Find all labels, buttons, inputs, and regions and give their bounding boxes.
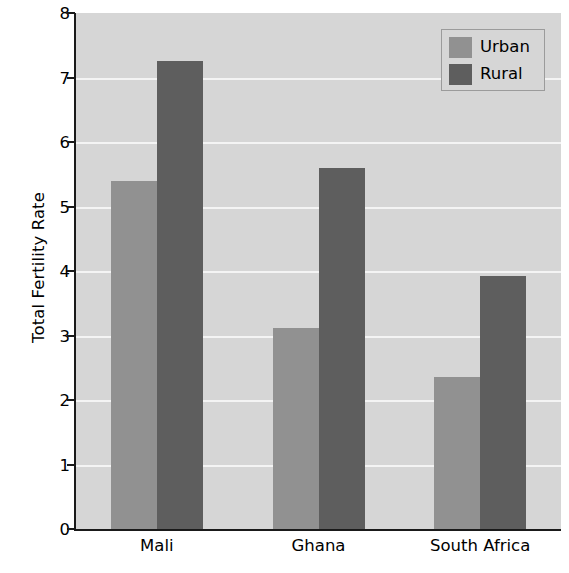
bar-urban-south-africa [434,377,480,529]
legend-item-urban: Urban [449,36,530,58]
y-tick-mark [67,141,75,143]
y-tick-mark [67,77,75,79]
y-tick-mark [67,335,75,337]
y-tick-label: 4 [40,262,70,281]
y-tick-label: 5 [40,197,70,216]
bar-rural-mali [157,61,203,529]
y-tick-mark [67,528,75,530]
gridline [76,142,561,144]
y-tick-mark [67,270,75,272]
y-tick-label: 8 [40,4,70,23]
y-tick-label: 2 [40,391,70,410]
legend-label-urban: Urban [480,39,530,56]
y-axis-tick-labels: 012345678 [40,0,70,573]
legend-swatch-urban [449,37,472,58]
y-tick-mark [67,12,75,14]
y-tick-mark [67,399,75,401]
bar-rural-south-africa [480,276,526,529]
y-tick-label: 7 [40,68,70,87]
x-axis-label: South Africa [430,536,530,555]
legend-item-rural: Rural [449,63,523,85]
legend-swatch-rural [449,64,472,85]
legend-label-rural: Rural [480,66,523,83]
y-tick-label: 0 [40,520,70,539]
x-axis-line [74,529,561,531]
y-tick-mark [67,464,75,466]
x-axis-category-labels: MaliGhanaSouth Africa [76,536,561,572]
legend: Urban Rural [441,29,545,91]
y-tick-label: 3 [40,326,70,345]
bar-rural-ghana [319,168,365,529]
x-axis-label: Mali [140,536,174,555]
bar-urban-mali [111,181,157,529]
y-tick-mark [67,206,75,208]
fertility-rate-bar-chart: Total Fertility Rate 012345678 MaliGhana… [0,0,569,573]
bar-urban-ghana [273,328,319,529]
y-tick-label: 1 [40,455,70,474]
y-tick-label: 6 [40,133,70,152]
x-axis-label: Ghana [292,536,346,555]
